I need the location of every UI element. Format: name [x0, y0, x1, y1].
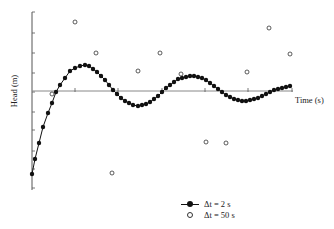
data-point: [192, 74, 196, 78]
data-point: [216, 87, 220, 91]
data-point: [252, 97, 256, 101]
legend-label: Δt = 2 s: [204, 199, 231, 209]
series-dt-2s: [30, 63, 292, 176]
data-point: [63, 76, 67, 80]
data-point: [68, 69, 72, 73]
data-point: [160, 90, 164, 94]
data-point: [111, 88, 115, 92]
data-point: [196, 75, 200, 79]
data-point: [288, 52, 292, 56]
data-point: [37, 141, 41, 145]
data-point: [260, 94, 264, 98]
data-point: [224, 141, 228, 145]
data-point: [50, 92, 54, 96]
data-point: [176, 77, 180, 81]
data-point: [224, 93, 228, 97]
data-point: [188, 74, 192, 78]
data-point: [30, 172, 34, 176]
data-point: [168, 83, 172, 87]
data-point: [204, 140, 208, 144]
data-point: [94, 51, 98, 55]
data-point: [280, 86, 284, 90]
legend-item-dt-50s: Δt = 50 s: [180, 210, 235, 220]
data-point: [87, 64, 91, 68]
data-point: [158, 51, 162, 55]
data-point: [288, 84, 292, 88]
data-point: [123, 99, 127, 103]
data-point: [95, 70, 99, 74]
data-point: [107, 83, 111, 87]
data-point: [264, 92, 268, 96]
data-point: [244, 99, 248, 103]
data-point: [268, 90, 272, 94]
data-point: [115, 92, 119, 96]
series-line: [32, 65, 290, 174]
data-point: [256, 96, 260, 100]
data-point: [236, 98, 240, 102]
data-point: [46, 111, 50, 115]
data-point: [73, 66, 77, 70]
data-point: [180, 76, 184, 80]
data-point: [144, 102, 148, 106]
data-point: [41, 125, 45, 129]
legend-label: Δt = 50 s: [204, 210, 235, 220]
series-dt-50s: [50, 20, 292, 175]
data-point: [228, 95, 232, 99]
data-point: [83, 63, 87, 67]
chart-plot-area: [0, 0, 334, 229]
legend-item-dt-2s: Δt = 2 s: [180, 199, 231, 209]
data-point: [103, 78, 107, 82]
data-point: [204, 78, 208, 82]
data-point: [276, 87, 280, 91]
data-point: [248, 98, 252, 102]
data-point: [50, 101, 54, 105]
data-point: [212, 84, 216, 88]
data-point: [54, 90, 58, 94]
data-point: [131, 103, 135, 107]
data-point: [140, 103, 144, 107]
data-point: [184, 75, 188, 79]
filled-circle-line-icon: [180, 199, 200, 209]
open-circle-icon: [180, 210, 200, 220]
data-point: [220, 90, 224, 94]
data-point: [245, 70, 249, 74]
data-point: [136, 104, 140, 108]
data-point: [232, 97, 236, 101]
data-point: [156, 94, 160, 98]
data-point: [272, 88, 276, 92]
data-point: [240, 99, 244, 103]
data-point: [148, 100, 152, 104]
y-axis-label: Head (m): [9, 75, 19, 107]
data-point: [172, 80, 176, 84]
data-point: [200, 76, 204, 80]
data-point: [267, 26, 271, 30]
data-point: [127, 101, 131, 105]
data-point: [179, 72, 183, 76]
data-point: [99, 74, 103, 78]
data-point: [78, 64, 82, 68]
data-point: [73, 20, 77, 24]
data-point: [33, 157, 37, 161]
data-point: [110, 171, 114, 175]
data-point: [58, 83, 62, 87]
x-axis-label: Time (s): [295, 95, 324, 105]
data-point: [91, 67, 95, 71]
data-point: [284, 85, 288, 89]
data-point: [136, 69, 140, 73]
data-point: [152, 97, 156, 101]
data-point: [164, 86, 168, 90]
data-point: [119, 96, 123, 100]
data-point: [208, 81, 212, 85]
